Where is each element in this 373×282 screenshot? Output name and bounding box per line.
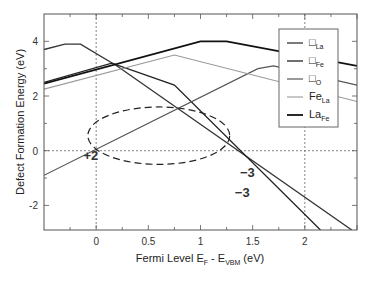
y-tick-label: 0 [32,146,38,157]
x-tick-label: 0 [93,236,99,247]
x-tick-labels: 00.511.52 [93,236,308,247]
legend: □La□Fe□OFeLaLaFe [279,29,338,127]
y-tick-label: -2 [29,200,38,211]
y-tick-label: 4 [32,36,38,47]
x-tick-label: 1.5 [246,236,260,247]
y-tick-labels: 420-2 [29,36,38,211]
highlight-ellipse [88,107,230,164]
y-axis-title: Defect Formation Energy (eV) [14,49,26,195]
x-tick-label: 2 [302,236,308,247]
x-tick-label: 0.5 [141,236,155,247]
y-tick-label: 2 [32,91,38,102]
x-tick-label: 1 [198,236,204,247]
annotation-label: −3 [240,165,255,180]
x-axis-title: Fermi Level EF - EVBM (eV) [136,252,264,266]
annotation-label: −3 [235,185,250,200]
annotation-label: +2 [84,148,99,163]
chart: 00.511.52 420-2 Fermi Level EF - EVBM (e… [0,0,373,282]
